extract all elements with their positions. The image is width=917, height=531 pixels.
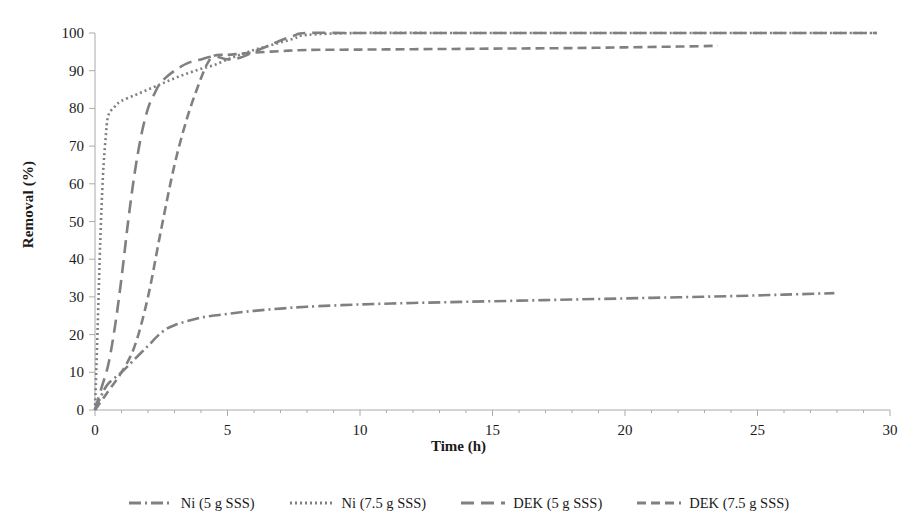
y-tick-label: 30 [69, 289, 84, 305]
legend-item[interactable]: DEK (7.5 g SSS) [636, 495, 789, 512]
y-tick-label: 50 [69, 214, 84, 230]
y-axis-title: Removal (%) [20, 85, 37, 325]
legend-item[interactable]: Ni (5 g SSS) [128, 495, 255, 512]
data-series-group [95, 33, 877, 410]
x-tick-label: 25 [750, 422, 765, 438]
x-axis-title: Time (h) [0, 438, 917, 455]
y-tick-label: 10 [69, 364, 84, 380]
legend-item[interactable]: DEK (5 g SSS) [460, 495, 602, 512]
chart-svg: 0102030405060708090100 051015202530 [0, 0, 917, 470]
y-tick-label: 70 [69, 138, 84, 154]
legend-label: DEK (5 g SSS) [513, 495, 602, 512]
legend-line-swatch [289, 498, 335, 508]
chart-legend: Ni (5 g SSS)Ni (7.5 g SSS)DEK (5 g SSS)D… [0, 488, 917, 518]
y-tick-label: 0 [77, 402, 85, 418]
legend-label: Ni (7.5 g SSS) [342, 495, 427, 512]
x-tick-label: 20 [618, 422, 633, 438]
chart-container: 0102030405060708090100 051015202530 Remo… [0, 0, 917, 531]
y-tick-label: 90 [69, 63, 84, 79]
legend-line-swatch [636, 498, 682, 508]
series-line [95, 33, 877, 410]
series-line [95, 46, 718, 410]
y-tick-label: 100 [62, 25, 85, 41]
y-tick-label: 20 [69, 327, 84, 343]
legend-label: Ni (5 g SSS) [181, 495, 255, 512]
x-tick-label: 0 [91, 422, 99, 438]
x-tick-label: 30 [883, 422, 898, 438]
legend-line-swatch [128, 498, 174, 508]
plot-area: 0102030405060708090100 051015202530 Remo… [0, 0, 917, 470]
y-axis-ticks: 0102030405060708090100 [62, 25, 96, 418]
legend-line-swatch [460, 498, 506, 508]
legend-label: DEK (7.5 g SSS) [689, 495, 789, 512]
y-tick-label: 60 [69, 176, 84, 192]
x-axis-ticks: 051015202530 [91, 410, 897, 438]
x-tick-label: 10 [353, 422, 368, 438]
x-tick-label: 5 [224, 422, 232, 438]
series-line [95, 293, 834, 410]
series-line [95, 33, 877, 410]
y-tick-label: 40 [69, 251, 84, 267]
legend-item[interactable]: Ni (7.5 g SSS) [289, 495, 427, 512]
x-tick-label: 15 [485, 422, 500, 438]
y-tick-label: 80 [69, 100, 84, 116]
